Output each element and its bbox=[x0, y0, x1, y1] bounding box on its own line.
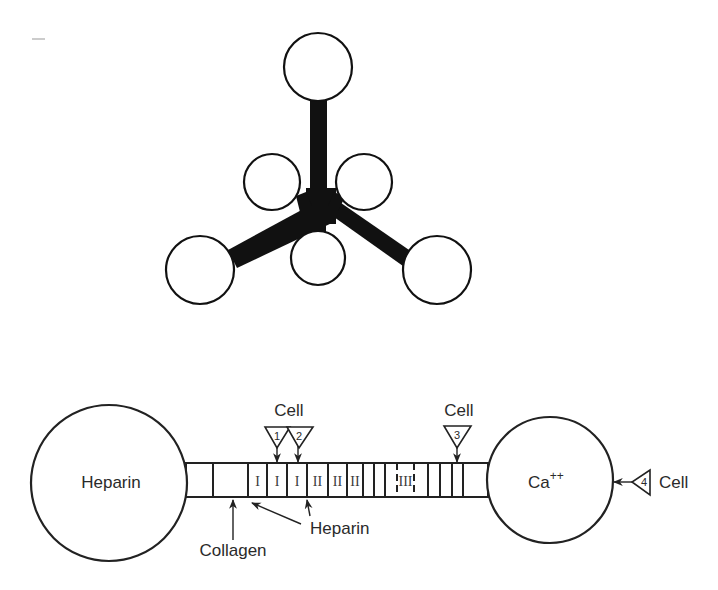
svg-text:3: 3 bbox=[454, 429, 460, 441]
globe-small-bottom bbox=[291, 231, 345, 285]
repeat-type-II: II bbox=[313, 474, 323, 489]
cell-label-site-4: Cell bbox=[659, 473, 688, 492]
cell-site-1: 1 bbox=[265, 427, 290, 462]
svg-text:4: 4 bbox=[641, 476, 647, 488]
svg-text:1: 1 bbox=[274, 430, 280, 442]
globe-small-left bbox=[244, 154, 300, 210]
svg-text:2: 2 bbox=[296, 430, 302, 442]
repeat-type-III: III bbox=[399, 474, 413, 489]
globe-small-right bbox=[336, 154, 392, 210]
globe-large-right bbox=[403, 236, 471, 304]
cell-label-sites-1-2: Cell bbox=[274, 401, 303, 420]
heparin-arrow-1 bbox=[252, 503, 301, 524]
cell-site-2: 2 bbox=[287, 427, 313, 462]
repeat-type-II: II bbox=[350, 474, 360, 489]
globe-large-left bbox=[166, 236, 234, 304]
cell-label-site-3: Cell bbox=[444, 401, 473, 420]
domain-map: I I I II II II III Heparin Ca++ Cell 1 2… bbox=[31, 401, 688, 561]
cell-site-4: 4 bbox=[614, 470, 650, 495]
cell-site-3: 3 bbox=[444, 426, 471, 462]
heparin-annotation-label: Heparin bbox=[310, 519, 370, 538]
repeat-type-I: I bbox=[275, 474, 280, 489]
heparin-arrow-2 bbox=[307, 500, 310, 516]
fibronectin-diagram: I I I II II II III Heparin Ca++ Cell 1 2… bbox=[0, 0, 718, 590]
repeat-type-I: I bbox=[295, 474, 300, 489]
tetrahedral-molecule bbox=[166, 33, 471, 304]
collagen-label: Collagen bbox=[199, 541, 266, 560]
repeat-type-II: II bbox=[333, 474, 343, 489]
repeat-type-I: I bbox=[255, 474, 260, 489]
globe-large-top bbox=[284, 33, 352, 101]
heparin-globe-label: Heparin bbox=[81, 473, 141, 492]
